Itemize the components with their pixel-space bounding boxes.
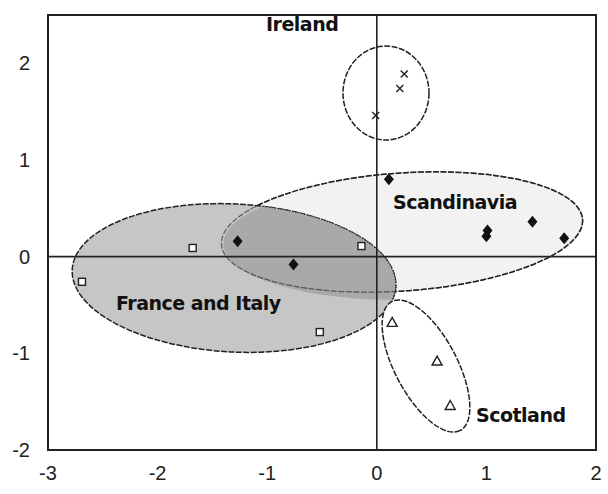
scatter-chart: -3-2-1012-2-1012 Ireland Scandinavia Fra… — [0, 0, 608, 494]
x-tick-label: 2 — [590, 462, 601, 484]
x-tick-label: 0 — [371, 462, 382, 484]
y-tick-label: -2 — [12, 439, 30, 461]
point-france-and-italy — [358, 243, 365, 250]
x-tick-label: 1 — [481, 462, 492, 484]
label-scandinavia: Scandinavia — [393, 191, 517, 213]
x-tick-label: -1 — [258, 462, 276, 484]
point-france-and-italy — [78, 278, 85, 285]
label-france-italy: France and Italy — [116, 292, 282, 314]
point-ireland — [396, 85, 403, 92]
x-tick-label: -3 — [39, 462, 57, 484]
point-france-and-italy — [189, 244, 196, 251]
point-ireland — [401, 70, 408, 77]
x-tick-label: -2 — [149, 462, 167, 484]
y-tick-label: 0 — [19, 246, 30, 268]
group-ellipses — [68, 46, 586, 445]
ireland-ellipse — [343, 46, 429, 140]
y-tick-label: -1 — [12, 342, 30, 364]
point-france-and-italy — [316, 329, 323, 336]
label-ireland: Ireland — [266, 13, 338, 35]
point-ireland — [372, 112, 379, 119]
y-tick-label: 1 — [19, 149, 30, 171]
y-tick-label: 2 — [19, 52, 30, 74]
label-scotland: Scotland — [476, 404, 566, 426]
